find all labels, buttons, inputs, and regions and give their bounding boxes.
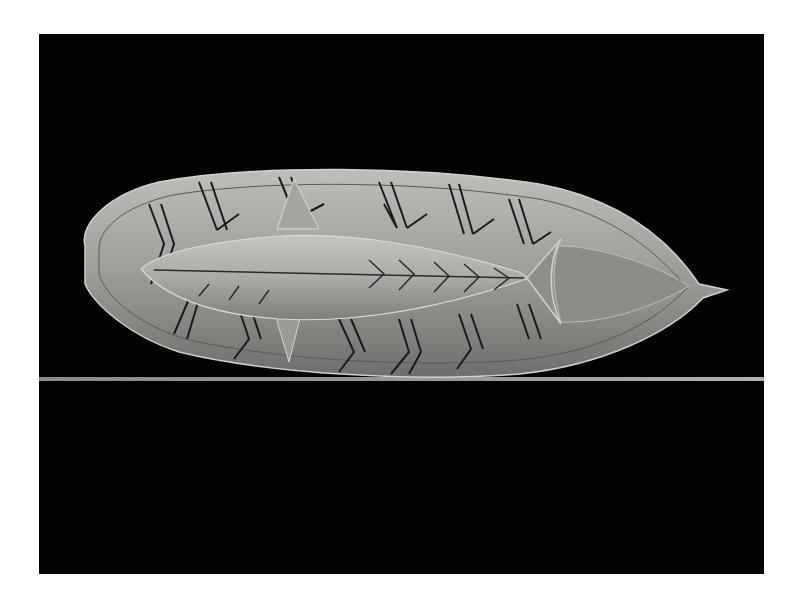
shelf-edge — [39, 377, 764, 381]
photo-frame — [39, 34, 764, 574]
artifact-photo — [39, 34, 764, 574]
